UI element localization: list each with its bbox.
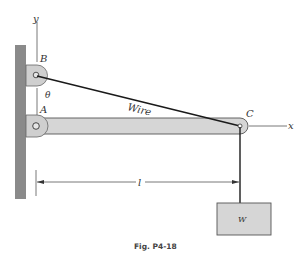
arrowhead-left-icon [37, 180, 44, 184]
y-axis-label: y [32, 13, 39, 24]
pin-a [33, 123, 40, 130]
point-b-label: B [39, 53, 47, 64]
arrowhead-right-icon [232, 180, 239, 184]
wire-boom-diagram: y B θ A Wire C x l W Fig. P4-18 [0, 0, 308, 262]
figure-caption: Fig. P4-18 [134, 242, 177, 251]
point-c-label: C [246, 108, 254, 119]
wall [15, 45, 26, 199]
angle-theta-label: θ [45, 90, 51, 100]
length-label: l [138, 177, 141, 188]
x-axis-label: x [288, 120, 294, 131]
point-a-label: A [39, 104, 47, 115]
weight-label: W [238, 215, 247, 224]
